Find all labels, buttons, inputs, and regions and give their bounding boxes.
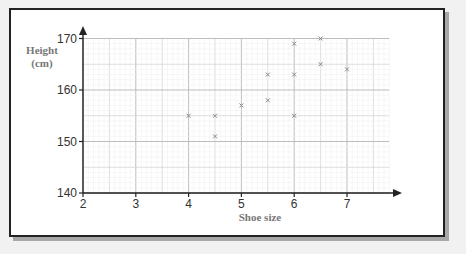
x-tick-label: 5 — [238, 197, 245, 211]
y-axis-label-line1: Height — [22, 44, 62, 57]
x-tick-label: 4 — [185, 197, 192, 211]
y-axis-arrow-icon — [79, 26, 87, 35]
x-tick-label: 3 — [132, 197, 139, 211]
x-axis-arrow-icon — [393, 189, 402, 197]
x-tick-label: 7 — [344, 197, 351, 211]
y-axis-label: Height (cm) — [22, 44, 62, 70]
x-tick-label: 2 — [80, 197, 87, 211]
y-tick-label: 160 — [57, 83, 77, 97]
y-tick-label: 140 — [57, 186, 77, 200]
y-tick-label: 150 — [57, 135, 77, 149]
x-tick-label: 6 — [291, 197, 298, 211]
x-axis-label: Shoe size — [210, 211, 310, 223]
y-axis-label-line2: (cm) — [22, 57, 62, 70]
